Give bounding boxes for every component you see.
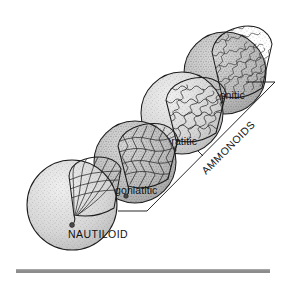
shell-nautiloid: NAUTILOID (27, 157, 128, 250)
cephalopod-suture-diagram: ammonitic ceratitic (0, 0, 287, 283)
label-goniatitic: goniatitic (115, 184, 157, 196)
label-nautiloid: NAUTILOID (68, 228, 128, 240)
diagram-canvas: ammonitic ceratitic (0, 0, 287, 283)
